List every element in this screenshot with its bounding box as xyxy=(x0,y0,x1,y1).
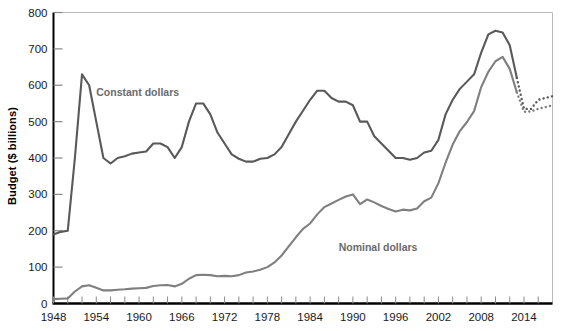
x-axis-tick-label: 1954 xyxy=(83,311,109,323)
constant-dollars-label: Constant dollars xyxy=(96,86,179,98)
x-axis-tick-label: 1960 xyxy=(126,311,152,323)
y-axis-tick-label: 400 xyxy=(28,152,47,164)
y-axis-tick-label: 500 xyxy=(28,116,47,128)
budget-line-chart: Budget ($ billions) 01002003004005006007… xyxy=(0,0,568,331)
nominal-dollars-label: Nominal dollars xyxy=(339,241,418,253)
plot-area: 0100200300400500600700800194819541960196… xyxy=(0,0,568,331)
x-axis-tick-label: 1948 xyxy=(41,311,67,323)
y-axis-tick-label: 300 xyxy=(28,188,47,200)
series-line xyxy=(54,31,517,235)
x-axis-tick-label: 2002 xyxy=(426,311,452,323)
x-axis-tick-label: 2014 xyxy=(511,311,537,323)
x-axis-tick-label: 2008 xyxy=(468,311,494,323)
x-axis-tick-label: 1990 xyxy=(340,311,366,323)
y-axis-tick-label: 200 xyxy=(28,225,47,237)
x-axis-tick-label: 1972 xyxy=(212,311,238,323)
x-axis-tick-label: 1978 xyxy=(255,311,281,323)
y-axis-tick-label: 700 xyxy=(28,43,47,55)
y-axis-tick-label: 800 xyxy=(28,7,47,19)
x-axis-tick-label: 1996 xyxy=(383,311,409,323)
y-axis-tick-label: 600 xyxy=(28,79,47,91)
x-axis-tick-label: 1984 xyxy=(297,311,323,323)
y-axis-tick-label: 0 xyxy=(41,298,47,310)
y-axis-tick-label: 100 xyxy=(28,261,47,273)
x-axis-tick-label: 1966 xyxy=(169,311,195,323)
